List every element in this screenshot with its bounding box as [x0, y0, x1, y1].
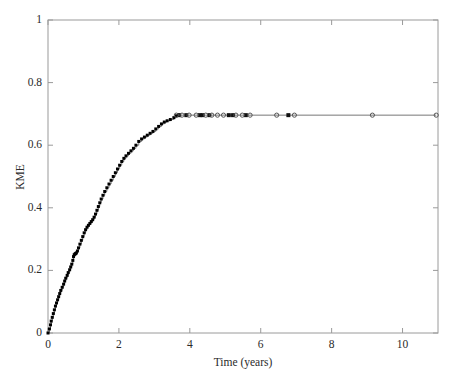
y-tick-label: 0.2: [6, 265, 42, 277]
kaplan-meier-plot: [0, 0, 456, 374]
axes-box: [48, 20, 438, 333]
x-tick-label: 2: [116, 339, 122, 351]
km-step-curve: [47, 114, 437, 335]
x-axis-label: Time (years): [214, 356, 273, 368]
axis-ticks: [48, 20, 438, 333]
y-tick-label: 1: [6, 14, 42, 26]
x-tick-label: 8: [329, 339, 335, 351]
y-tick-label: 0.4: [6, 202, 42, 214]
chart-figure: 024681000.20.40.60.81 Time (years) KME: [0, 0, 456, 374]
x-tick-label: 6: [258, 339, 264, 351]
x-tick-label: 10: [397, 339, 409, 351]
x-tick-label: 0: [45, 339, 51, 351]
y-tick-label: 0.6: [6, 139, 42, 151]
y-tick-label: 0.8: [6, 77, 42, 89]
y-tick-label: 0: [6, 327, 42, 339]
x-tick-label: 4: [187, 339, 193, 351]
y-axis-label: KME: [14, 164, 26, 190]
